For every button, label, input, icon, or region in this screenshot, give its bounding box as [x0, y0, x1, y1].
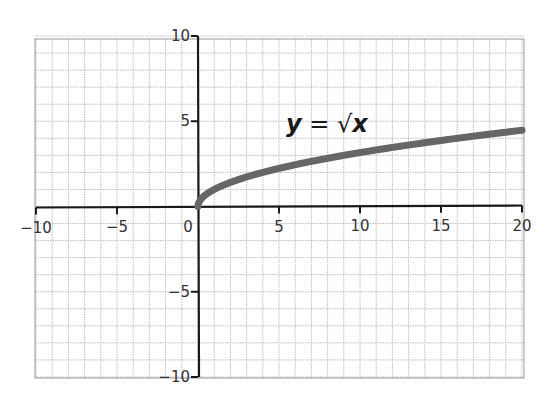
- x-tick-label: 10: [350, 217, 369, 235]
- x-tick-label: 20: [512, 217, 531, 235]
- y-tick-label: 10: [171, 27, 190, 45]
- x-tick-label: −5: [106, 218, 128, 236]
- x-tick-label: 0: [183, 218, 193, 236]
- x-tick-label: 15: [431, 217, 450, 235]
- x-tick-label: −10: [20, 219, 52, 237]
- y-tick-label: −10: [158, 368, 190, 386]
- y-tick-label: 5: [180, 112, 190, 130]
- x-tick-label: 5: [274, 218, 284, 236]
- y-tick-label: −5: [168, 283, 190, 301]
- equation-label: y = √x: [286, 110, 369, 138]
- sqrt-function-chart: −10−505101520105−5−10 y = √x: [0, 0, 549, 405]
